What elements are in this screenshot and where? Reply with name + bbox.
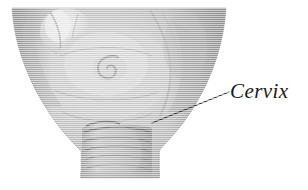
organ-body xyxy=(12,8,228,179)
cervical-canal xyxy=(80,122,160,179)
cervical-os xyxy=(93,55,127,81)
anatomical-figure: Cervix xyxy=(0,0,308,190)
annotation-label-cervix: Cervix xyxy=(230,80,288,102)
